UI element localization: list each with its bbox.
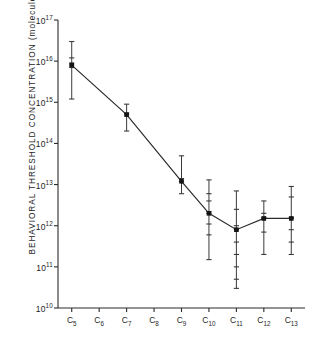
y-tick-label: 1017 <box>20 14 53 26</box>
x-tick-label: C7 <box>113 315 141 327</box>
y-tick-label: 1014 <box>20 137 53 149</box>
x-tick-label: C10 <box>195 315 223 327</box>
x-tick-label: C11 <box>222 315 250 327</box>
y-tick-label: 1013 <box>20 179 53 191</box>
x-tick-label: C9 <box>168 315 196 327</box>
data-point-marker <box>179 179 184 184</box>
x-tick-label: C12 <box>250 315 278 327</box>
y-tick-label: 1011 <box>20 261 53 273</box>
y-tick-label: 1015 <box>20 96 53 108</box>
data-point-marker <box>124 112 129 117</box>
figure-chart: BEHAVIORAL THRESHOLD CONCENTRATION (mole… <box>0 0 334 341</box>
data-point-marker <box>262 216 267 221</box>
data-point-marker <box>234 227 239 232</box>
plot-area <box>0 0 334 341</box>
data-point-marker <box>69 63 74 68</box>
x-tick-label: C8 <box>140 315 168 327</box>
y-tick-label: 1016 <box>20 55 53 67</box>
x-tick-label: C13 <box>277 315 305 327</box>
series-line <box>72 65 292 230</box>
data-point-marker <box>207 211 212 216</box>
x-tick-label: C5 <box>58 315 86 327</box>
x-tick-label: C6 <box>85 315 113 327</box>
y-tick-label: 1012 <box>20 220 53 232</box>
data-point-marker <box>289 216 294 221</box>
y-tick-label: 1010 <box>20 302 53 314</box>
